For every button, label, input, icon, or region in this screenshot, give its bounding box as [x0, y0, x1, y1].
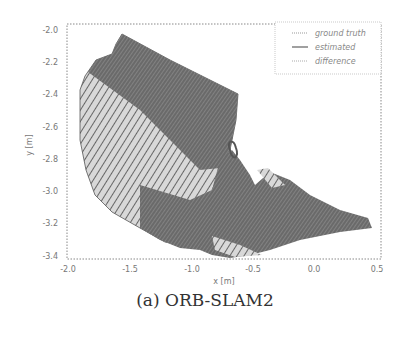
x-axis-label: x [m] — [213, 277, 234, 286]
y-tick: -3.0 — [42, 187, 58, 196]
x-tick: -2.0 — [60, 265, 76, 274]
x-tick: -1.0 — [184, 265, 200, 274]
y-tick: -3.2 — [42, 219, 58, 228]
figure-caption: (a) ORB-SLAM2 — [0, 290, 410, 310]
y-tick: -2.2 — [42, 58, 58, 67]
x-tick: 0.5 — [371, 265, 384, 274]
y-tick: -2.6 — [42, 123, 58, 132]
y-tick: -2.8 — [42, 155, 58, 164]
y-tick: -3.4 — [42, 252, 58, 261]
y-tick: -2.0 — [42, 26, 58, 35]
y-tick: -2.4 — [42, 90, 58, 99]
legend-ground-truth: ground truth — [315, 29, 366, 38]
y-axis-label: y [m] — [25, 134, 34, 155]
x-tick: -1.5 — [122, 265, 138, 274]
legend-estimated: estimated — [315, 43, 356, 52]
y-axis: -2.0 -2.2 -2.4 -2.6 -2.8 -3.0 -3.2 -3.4 … — [25, 26, 58, 261]
x-axis: -2.0 -1.5 -1.0 -0.5 0.0 0.5 x [m] — [60, 265, 383, 286]
legend: ground truth estimated difference — [275, 22, 381, 74]
x-tick: -0.5 — [245, 265, 261, 274]
x-tick: 0.0 — [308, 265, 321, 274]
legend-difference: difference — [315, 57, 356, 66]
